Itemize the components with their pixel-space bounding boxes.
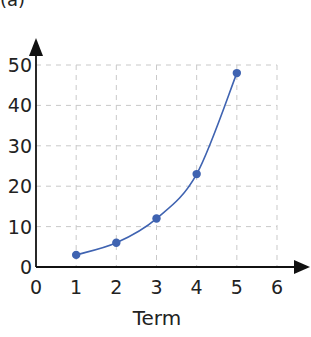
y-tick-label: 20 <box>8 175 32 197</box>
x-tick-label: 1 <box>70 276 82 298</box>
data-point-marker <box>152 214 160 222</box>
line-chart: 01020304050 0123456 Term <box>0 0 311 337</box>
x-tick-label: 5 <box>231 276 243 298</box>
data-point-marker <box>112 239 120 247</box>
data-point-marker <box>233 69 241 77</box>
x-tick-labels: 0123456 <box>30 276 283 298</box>
x-axis-arrow-icon <box>294 260 310 274</box>
x-axis-title: Term <box>132 306 181 330</box>
grid-lines <box>36 65 277 267</box>
data-point-marker <box>72 251 80 259</box>
y-tick-label: 40 <box>8 94 32 116</box>
y-tick-label: 50 <box>8 54 32 76</box>
data-point-marker <box>192 170 200 178</box>
x-tick-label: 4 <box>191 276 203 298</box>
x-tick-label: 0 <box>30 276 42 298</box>
y-tick-label: 30 <box>8 135 32 157</box>
x-tick-label: 6 <box>271 276 283 298</box>
y-tick-label: 0 <box>20 256 32 278</box>
x-tick-label: 3 <box>150 276 162 298</box>
x-tick-label: 2 <box>110 276 122 298</box>
y-tick-labels: 01020304050 <box>8 54 32 278</box>
y-tick-label: 10 <box>8 216 32 238</box>
axes <box>29 38 310 274</box>
